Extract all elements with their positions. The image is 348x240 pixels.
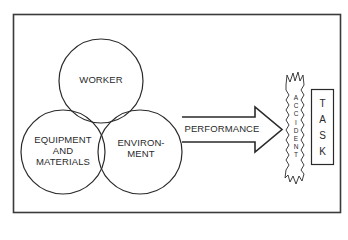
- equipment-label-line-3: MATERIALS: [27, 156, 99, 167]
- worker-label-line: WORKER: [79, 74, 122, 85]
- accident-label: A C C I D E N T: [290, 94, 302, 160]
- worker-label: WORKER: [71, 74, 131, 85]
- task-label: T A S K: [312, 96, 333, 160]
- accident-letter: T: [290, 151, 302, 159]
- equipment-label: EQUIPMENT AND MATERIALS: [27, 134, 99, 167]
- equipment-label-line-1: EQUIPMENT: [27, 134, 99, 145]
- accident-letter: C: [290, 110, 302, 118]
- accident-letter: I: [290, 119, 302, 127]
- performance-label-text: PERFORMANCE: [185, 123, 260, 134]
- accident-letter: E: [290, 135, 302, 143]
- accident-letter: A: [290, 94, 302, 102]
- environment-label-line-2: MENT: [112, 148, 170, 159]
- environment-label-line-1: ENVIRON-: [112, 137, 170, 148]
- accident-letter: D: [290, 127, 302, 135]
- environment-label: ENVIRON- MENT: [112, 137, 170, 159]
- accident-letter: N: [290, 143, 302, 151]
- performance-label: PERFORMANCE: [182, 123, 262, 134]
- accident-letter: C: [290, 102, 302, 110]
- task-letter: K: [312, 144, 333, 160]
- equipment-label-line-2: AND: [27, 145, 99, 156]
- task-letter: T: [312, 96, 333, 112]
- task-letter: A: [312, 112, 333, 128]
- task-letter: S: [312, 128, 333, 144]
